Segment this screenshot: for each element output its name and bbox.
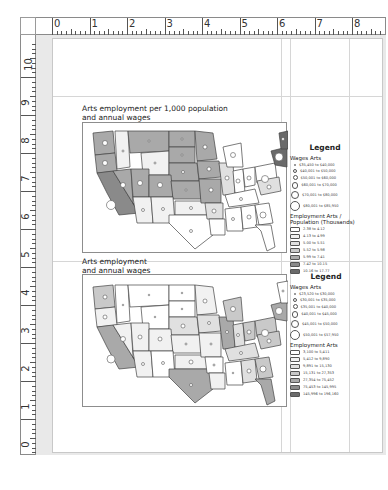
- proportional-circle-icon: [293, 175, 298, 180]
- legend-class-label: $50,001 to $57,950: [303, 333, 339, 337]
- ruler-label: 7: [317, 18, 323, 29]
- color-swatch-icon: [290, 255, 300, 260]
- legend-wage-class: $70,001 to $80,000: [290, 191, 360, 199]
- legend-class-label: $40,001 to $45,000: [301, 312, 337, 316]
- ruler-major-tick: [21, 153, 36, 154]
- map2-us-states[interactable]: [83, 275, 288, 408]
- legend-class-label: 15,131 to 27,353: [303, 371, 334, 375]
- map1-legend[interactable]: Legend Wages Arts $35,450 to $40,000$40,…: [290, 143, 360, 276]
- legend-class-label: 9,891 to 15,130: [303, 364, 332, 368]
- legend-title: Legend: [290, 272, 362, 281]
- map1-title-line2: and annual wages: [82, 113, 228, 122]
- legend-class-label: 145,996 to 196,160: [303, 392, 339, 396]
- legend-employment-class: 9,891 to 15,130: [290, 364, 362, 369]
- proportional-circle-icon: [290, 201, 300, 211]
- legend-wage-class: $45,001 to $50,000: [290, 320, 362, 328]
- map2-title: Arts employment and annual wages: [82, 257, 150, 275]
- legend-class-label: $50,001 to $60,000: [301, 176, 337, 180]
- legend-wage-class: $35,450 to $40,000: [290, 163, 360, 167]
- color-swatch-icon: [290, 262, 300, 267]
- legend-class-label: $70,001 to $80,000: [302, 193, 338, 197]
- legend-wage-class: $60,001 to $70,000: [290, 182, 360, 189]
- legend-employment-class: 7.42 to 10.15: [290, 262, 360, 267]
- legend-class-label: 5,412 to 9,890: [303, 357, 329, 361]
- ruler-major-tick: [352, 18, 353, 35]
- color-swatch-icon: [290, 234, 300, 239]
- legend-wage-class: $23,520 to $30,000: [290, 292, 362, 296]
- ruler-label: 0: [20, 441, 31, 447]
- legend-title: Legend: [290, 143, 360, 152]
- ruler-label: 6: [20, 213, 31, 219]
- ruler-major-tick: [240, 18, 241, 35]
- legend-class-label: $80,001 to $85,950: [303, 204, 339, 208]
- legend-class-label: $35,450 to $40,000: [299, 163, 335, 167]
- color-swatch-icon: [290, 392, 300, 397]
- legend-class-label: $35,001 to $40,000: [301, 305, 337, 309]
- map2-title-line1: Arts employment: [82, 257, 150, 266]
- proportional-circle-icon: [293, 169, 297, 173]
- legend-class-label: 5.00 to 5.51: [303, 241, 325, 245]
- ruler-label: 10: [23, 58, 34, 71]
- ruler-label: 6: [279, 18, 285, 29]
- legend-class-label: $30,001 to $35,000: [300, 298, 336, 302]
- legend-wage-class: $50,001 to $60,000: [290, 175, 360, 180]
- legend-employment-class: 5.99 to 7.41: [290, 255, 360, 260]
- ruler-label: 0: [54, 18, 60, 29]
- ruler-label: 1: [92, 18, 98, 29]
- map2-frame[interactable]: [82, 274, 287, 407]
- ruler-corner: [20, 17, 36, 35]
- legend-class-label: 2.38 to 4.12: [303, 227, 325, 231]
- proportional-circle-icon: [292, 311, 299, 318]
- legend-class-label: 75,453 to 145,995: [303, 385, 336, 389]
- ruler-label: 1: [20, 403, 31, 409]
- guide-line: [53, 96, 382, 97]
- vertical-ruler[interactable]: 109876543210: [20, 35, 36, 455]
- legend-employment-class: 27,354 to 75,452: [290, 378, 362, 383]
- ruler-major-tick: [52, 18, 53, 35]
- color-swatch-icon: [290, 248, 300, 253]
- ruler-label: 2: [129, 18, 135, 29]
- proportional-circle-icon: [291, 320, 299, 328]
- ruler-major-tick: [127, 18, 128, 35]
- ruler-label: 4: [20, 289, 31, 295]
- ruler-major-tick: [21, 77, 36, 78]
- ruler-label: 5: [242, 18, 248, 29]
- legend-wage-class: $40,001 to $45,000: [290, 311, 362, 318]
- legend-wage-class: $30,001 to $35,000: [290, 298, 362, 302]
- color-swatch-icon: [290, 371, 300, 376]
- proportional-circle-icon: [294, 164, 296, 166]
- horizontal-ruler[interactable]: 012345678: [36, 17, 386, 35]
- map1-us-states[interactable]: [83, 123, 288, 254]
- color-swatch-icon: [290, 350, 300, 355]
- ruler-label: 9: [20, 99, 31, 105]
- legend-class-label: $45,001 to $50,000: [302, 322, 338, 326]
- legend-employment-class: 2.38 to 4.12: [290, 227, 360, 232]
- ruler-major-tick: [21, 191, 36, 192]
- legend-employment-class: 5.00 to 5.51: [290, 241, 360, 246]
- ruler-major-tick: [277, 18, 278, 35]
- ruler-major-tick: [90, 18, 91, 35]
- proportional-circle-icon: [293, 304, 298, 309]
- ruler-major-tick: [165, 18, 166, 35]
- ruler-major-tick: [21, 343, 36, 344]
- proportional-circle-icon: [293, 298, 297, 302]
- ruler-label: 8: [354, 18, 360, 29]
- ruler-major-tick: [21, 305, 36, 306]
- map1-frame[interactable]: [82, 122, 287, 253]
- legend-class-label: $40,001 to $50,000: [300, 169, 336, 173]
- legend-employment-class: 75,453 to 145,995: [290, 385, 362, 390]
- map1-title: Arts employment per 1,000 population and…: [82, 104, 228, 122]
- ruler-label: 3: [20, 327, 31, 333]
- legend-wage-class: $40,001 to $50,000: [290, 169, 360, 173]
- color-swatch-icon: [290, 364, 300, 369]
- ruler-label: 7: [20, 175, 31, 181]
- ruler-label: 8: [20, 137, 31, 143]
- map2-legend[interactable]: Legend Wages Arts $23,520 to $30,000$30,…: [290, 272, 362, 399]
- ruler-label: 3: [167, 18, 173, 29]
- legend-wage-class: $35,001 to $40,000: [290, 304, 362, 309]
- ruler-major-tick: [21, 419, 36, 420]
- proportional-circle-icon: [291, 191, 299, 199]
- legend-employment-class: 145,996 to 196,160: [290, 392, 362, 397]
- legend-wage-class: $50,001 to $57,950: [290, 330, 362, 340]
- legend-employment-class: 5.52 to 5.98: [290, 248, 360, 253]
